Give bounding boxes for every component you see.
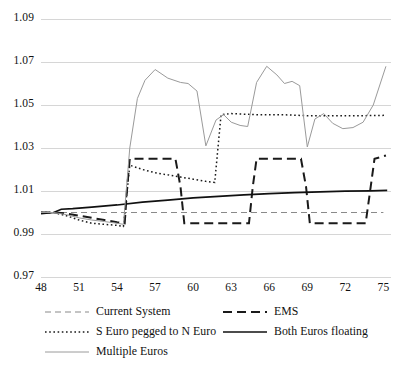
legend-item: Multiple Euros: [44, 344, 168, 359]
y-tick-label: 0.97: [0, 269, 34, 281]
legend-label: EMS: [274, 304, 298, 319]
series-layer: [41, 66, 387, 226]
gridlines: [41, 19, 391, 277]
legend-line-sample: [222, 326, 268, 338]
y-tick-label: 0.99: [0, 226, 34, 238]
legend-item: Both Euros floating: [222, 324, 368, 339]
y-tick-label: 1.03: [0, 140, 34, 152]
series-line-both-euros-floating: [41, 190, 387, 213]
plot-svg: [0, 0, 399, 300]
y-tick-label: 1.01: [0, 183, 34, 195]
legend-line-sample: [222, 306, 268, 318]
legend-label: S Euro pegged to N Euro: [96, 324, 216, 339]
legend-item: EMS: [222, 304, 298, 319]
legend-line-sample: [44, 306, 90, 318]
plot-area: 1.091.071.051.031.010.990.97 48515457606…: [0, 0, 399, 300]
legend-line-sample: [44, 346, 90, 358]
legend-item: Current System: [44, 304, 170, 319]
x-tick-label: 57: [140, 281, 170, 293]
x-tick-label: 69: [292, 281, 322, 293]
chart-figure: 1.091.071.051.031.010.990.97 48515457606…: [0, 0, 399, 371]
x-tick-label: 63: [216, 281, 246, 293]
legend-item: S Euro pegged to N Euro: [44, 324, 216, 339]
legend-line-sample: [44, 326, 90, 338]
y-tick-label: 1.09: [0, 11, 34, 23]
y-tick-label: 1.05: [0, 97, 34, 109]
x-tick-label: 48: [26, 281, 56, 293]
x-tick-label: 60: [178, 281, 208, 293]
y-tick-label: 1.07: [0, 54, 34, 66]
x-tick-label: 54: [102, 281, 132, 293]
x-tick-label: 66: [254, 281, 284, 293]
series-line-ems: [41, 156, 386, 224]
series-line-multiple-euros: [41, 66, 386, 224]
legend-label: Multiple Euros: [96, 344, 168, 359]
legend-label: Current System: [96, 304, 170, 319]
chart-legend: Current SystemEMSS Euro pegged to N Euro…: [0, 300, 399, 371]
legend-label: Both Euros floating: [274, 324, 368, 339]
x-tick-label: 75: [368, 281, 398, 293]
x-tick-label: 72: [330, 281, 360, 293]
series-line-s-euro-pegged-to-n-euro: [41, 114, 386, 227]
x-tick-label: 51: [64, 281, 94, 293]
